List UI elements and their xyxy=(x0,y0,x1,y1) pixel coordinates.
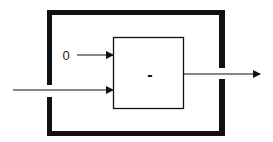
block-operator-label: - xyxy=(147,66,152,83)
diagram-canvas: - 0 xyxy=(0,0,273,142)
constant-zero-label: 0 xyxy=(62,48,69,63)
